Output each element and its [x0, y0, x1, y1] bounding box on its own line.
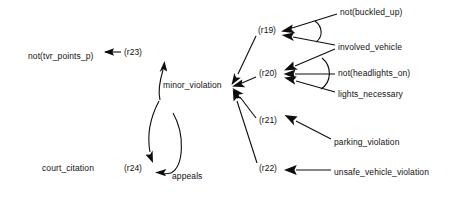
diagram-canvas: not(tvr_points_p) minor_violation court_… — [0, 0, 455, 201]
edge-parking-violation-to-r21 — [285, 115, 332, 139]
node-unsafe-vehicle-violation: unsafe_vehicle_violation — [334, 168, 429, 177]
node-not-buckled-up: not(buckled_up) — [340, 8, 402, 17]
node-not-headlights-on: not(headlights_on) — [338, 69, 410, 78]
edge-minor-violation-to-r24 — [146, 101, 159, 163]
node-not-tvr-points-p: not(tvr_points_p) — [28, 52, 93, 61]
edge-r22-to-minor-violation — [233, 90, 257, 164]
edge-r21-to-minor-violation — [233, 88, 257, 118]
node-court-citation: court_citation — [42, 164, 94, 173]
node-parking-violation: parking_violation — [334, 138, 400, 147]
edge-not-buckled-up-to-r19 — [281, 14, 337, 33]
rule-node-r23: (r23) — [124, 48, 142, 57]
conjunction-arc-r19 — [315, 21, 321, 42]
rule-node-r21: (r21) — [259, 116, 277, 125]
node-minor-violation: minor_violation — [163, 81, 222, 90]
edge-lights-necessary-to-r20 — [284, 76, 335, 92]
node-involved-vehicle: involved_vehicle — [338, 43, 402, 52]
edge-involved-vehicle-to-r19 — [282, 33, 336, 45]
edge-unsafe-vehicle-violation-to-r22 — [284, 165, 331, 175]
edge-involved-vehicle-to-r20 — [284, 49, 335, 71]
node-appeals: appeals — [172, 172, 202, 181]
node-lights-necessary: lights_necessary — [338, 90, 403, 99]
rule-node-r24: (r24) — [124, 164, 142, 173]
edge-r19-to-minor-violation — [232, 36, 257, 85]
rule-node-r20: (r20) — [259, 69, 277, 78]
edge-r23-to-not-tvr-points-p — [104, 48, 121, 56]
rule-node-r22: (r22) — [259, 164, 277, 173]
edge-appeals-to-r24 — [155, 113, 181, 176]
rule-node-r19: (r19) — [258, 26, 276, 35]
